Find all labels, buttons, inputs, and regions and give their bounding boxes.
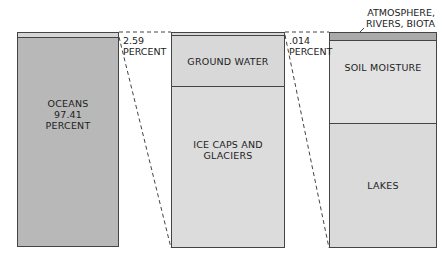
atmosphere-label: ATMOSPHERE, RIVERS, BIOTA xyxy=(366,7,435,29)
ice-caps-segment: ICE CAPS AND GLACIERS xyxy=(172,87,284,247)
liquid-percent-label: .014 PERCENT xyxy=(289,35,332,57)
soil-moisture-segment: SOIL MOISTURE xyxy=(330,41,436,124)
total-water-column: OCEANS 97.41 PERCENT xyxy=(17,32,119,247)
liquid-fresh-column: SOIL MOISTURE LAKES xyxy=(329,32,437,248)
oceans-segment: OCEANS 97.41 PERCENT xyxy=(18,38,118,246)
fresh-water-column: GROUND WATER ICE CAPS AND GLACIERS xyxy=(171,32,285,248)
ground-water-segment: GROUND WATER xyxy=(172,36,284,87)
atmosphere-segment xyxy=(330,33,436,41)
lakes-segment: LAKES xyxy=(330,124,436,247)
fresh-percent-label: 2.59 PERCENT xyxy=(123,35,166,57)
